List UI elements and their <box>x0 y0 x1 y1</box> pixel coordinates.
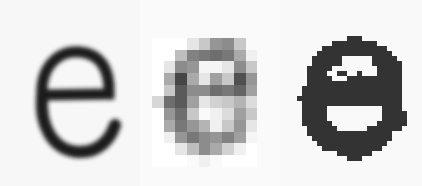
gray-pixel <box>246 132 258 144</box>
gray-pixel <box>199 108 211 120</box>
gray-pixel <box>164 38 176 50</box>
gray-pixel <box>222 38 234 50</box>
gray-pixel <box>234 120 246 132</box>
binary-letter-panel <box>280 0 422 186</box>
gray-pixel <box>152 38 164 50</box>
gray-pixel <box>152 143 164 155</box>
gray-pixel <box>187 155 199 167</box>
gray-pixel <box>187 61 199 73</box>
gray-pixel <box>175 61 187 73</box>
gray-pixel <box>152 96 164 108</box>
original-letter-panel <box>0 0 140 186</box>
gray-pixel <box>152 155 164 167</box>
gray-pixel <box>164 50 176 62</box>
gray-pixel <box>222 85 234 97</box>
gray-pixel <box>152 85 164 97</box>
gray-pixel <box>234 50 246 62</box>
gray-pixel <box>187 96 199 108</box>
gray-pixel <box>210 50 222 62</box>
gray-pixel <box>210 85 222 97</box>
gray-pixel <box>210 61 222 73</box>
gray-pixel <box>222 132 234 144</box>
gray-pixel <box>164 96 176 108</box>
gray-pixel <box>210 73 222 85</box>
gray-pixel <box>222 155 234 167</box>
gray-pixel <box>199 143 211 155</box>
gray-pixel <box>164 143 176 155</box>
gray-pixel <box>187 38 199 50</box>
gray-pixel <box>234 132 246 144</box>
gray-pixel <box>234 108 246 120</box>
gray-pixel <box>222 96 234 108</box>
gray-pixel <box>222 73 234 85</box>
gray-pixel <box>246 38 258 50</box>
gray-pixel <box>222 108 234 120</box>
gray-pixel <box>234 61 246 73</box>
gray-pixel <box>234 38 246 50</box>
gray-pixel <box>187 132 199 144</box>
gray-pixel <box>199 96 211 108</box>
grayscale-pixel-grid <box>152 38 257 167</box>
gray-pixel <box>246 61 258 73</box>
gray-pixel <box>210 38 222 50</box>
gray-pixel <box>199 132 211 144</box>
gray-pixel <box>199 73 211 85</box>
gray-pixel <box>246 143 258 155</box>
grayscale-letter-panel <box>140 0 280 186</box>
gray-pixel <box>222 143 234 155</box>
gray-pixel <box>199 120 211 132</box>
gray-pixel <box>164 132 176 144</box>
gray-pixel <box>187 120 199 132</box>
gray-pixel <box>175 38 187 50</box>
gray-pixel <box>175 96 187 108</box>
gray-pixel <box>234 155 246 167</box>
gray-pixel <box>175 132 187 144</box>
gray-pixel <box>246 50 258 62</box>
gray-pixel <box>175 73 187 85</box>
gray-pixel <box>152 132 164 144</box>
gray-pixel <box>246 155 258 167</box>
gray-pixel <box>152 73 164 85</box>
gray-pixel <box>210 143 222 155</box>
gray-pixel <box>175 143 187 155</box>
gray-pixel <box>164 85 176 97</box>
gray-pixel <box>152 108 164 120</box>
gray-pixel <box>210 155 222 167</box>
gray-pixel <box>164 155 176 167</box>
gray-pixel <box>246 108 258 120</box>
gray-pixel <box>246 85 258 97</box>
gray-pixel <box>164 120 176 132</box>
gray-pixel <box>187 50 199 62</box>
gray-pixel <box>152 120 164 132</box>
gray-pixel <box>246 120 258 132</box>
gray-pixel <box>152 61 164 73</box>
gray-pixel <box>246 96 258 108</box>
gray-pixel <box>234 96 246 108</box>
gray-pixel <box>152 50 164 62</box>
gray-pixel <box>199 50 211 62</box>
gray-pixel <box>210 96 222 108</box>
gray-pixel <box>210 120 222 132</box>
gray-pixel <box>234 85 246 97</box>
gray-pixel <box>199 61 211 73</box>
gray-pixel <box>187 73 199 85</box>
gray-pixel <box>222 50 234 62</box>
gray-pixel <box>199 155 211 167</box>
gray-pixel <box>234 143 246 155</box>
gray-pixel <box>246 73 258 85</box>
gray-pixel <box>187 85 199 97</box>
gray-pixel <box>164 73 176 85</box>
gray-pixel <box>222 120 234 132</box>
binary-pixel <box>407 156 412 161</box>
binary-pixel-grid <box>297 36 412 161</box>
gray-pixel <box>175 85 187 97</box>
gray-pixel <box>199 85 211 97</box>
gray-pixel <box>175 155 187 167</box>
blurred-letter-e <box>0 0 140 186</box>
gray-pixel <box>187 143 199 155</box>
gray-pixel <box>199 38 211 50</box>
gray-pixel <box>164 108 176 120</box>
gray-pixel <box>164 61 176 73</box>
gray-pixel <box>175 120 187 132</box>
gray-pixel <box>222 61 234 73</box>
